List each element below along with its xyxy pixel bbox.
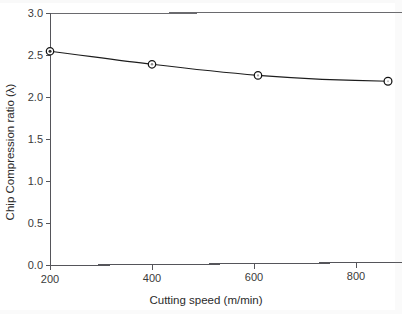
data-point-3 (254, 72, 261, 79)
data-point-4 (384, 77, 392, 85)
y-tick-label-1: 0.5 (28, 217, 43, 229)
y-tick-label-0: 0.0 (28, 259, 43, 271)
line-chart: 0.0 0.5 1.0 1.5 2.0 2.5 3.0 200 400 600 … (0, 0, 402, 314)
x-tick-label-0: 200 (41, 273, 59, 285)
y-tick-label-2: 1.0 (28, 175, 43, 187)
data-point-2 (148, 61, 155, 68)
y-axis-title: Chip Compression ratio (λ) (4, 83, 16, 220)
y-tick-label-3: 1.5 (28, 133, 43, 145)
x-tick-label-2: 600 (245, 271, 263, 283)
chart-figure: 0.0 0.5 1.0 1.5 2.0 2.5 3.0 200 400 600 … (0, 0, 402, 314)
y-tick-label-5: 2.5 (28, 49, 43, 61)
x-axis-title: Cutting speed (m/min) (149, 294, 262, 306)
y-tick-label-6: 3.0 (28, 7, 43, 19)
data-point-1 (46, 48, 53, 55)
x-tick-label-1: 400 (143, 272, 161, 284)
x-tick-label-3: 800 (347, 270, 365, 282)
y-tick-label-4: 2.0 (28, 91, 43, 103)
chart-background (0, 0, 402, 314)
